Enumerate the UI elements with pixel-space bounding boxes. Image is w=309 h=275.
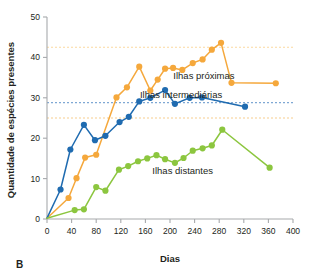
data-point-ilhas-pr-ximas-7 <box>136 64 142 70</box>
data-point-ilhas-distantes-7 <box>135 158 141 164</box>
x-tick-label-360: 360 <box>261 226 275 236</box>
y-tick-label-0: 0 <box>35 214 40 224</box>
y-tick-label-40: 40 <box>31 52 41 62</box>
data-point-ilhas-pr-ximas-17 <box>228 80 234 86</box>
data-point-ilhas-distantes-16 <box>219 127 225 133</box>
x-tick-label-320: 320 <box>237 226 251 236</box>
data-point-ilhas-intermedi-rias-7 <box>126 114 132 120</box>
x-tick-label-280: 280 <box>212 226 226 236</box>
x-tick-label-120: 120 <box>114 226 128 236</box>
series-line-ilhas-intermedi-rias <box>47 90 245 218</box>
data-point-ilhas-pr-ximas-4 <box>93 152 99 158</box>
x-tick-label-400: 400 <box>286 226 300 236</box>
data-point-ilhas-intermedi-rias-6 <box>116 119 122 125</box>
data-point-ilhas-pr-ximas-14 <box>199 56 205 62</box>
species-accumulation-chart: 0102030405004080120160200240280320360400… <box>0 0 309 275</box>
data-point-ilhas-intermedi-rias-14 <box>242 104 248 110</box>
data-point-ilhas-pr-ximas-15 <box>209 47 215 53</box>
y-tick-label-30: 30 <box>31 93 41 103</box>
data-point-ilhas-distantes-4 <box>102 188 108 194</box>
data-point-ilhas-distantes-6 <box>125 163 131 169</box>
x-tick-label-200: 200 <box>163 226 177 236</box>
data-point-ilhas-distantes-12 <box>180 155 186 161</box>
x-axis-title: Dias <box>160 253 180 264</box>
data-point-ilhas-distantes-1 <box>72 207 78 213</box>
chart-panel: 0102030405004080120160200240280320360400… <box>0 0 309 275</box>
y-tick-label-20: 20 <box>31 133 41 143</box>
tick-labels-group: 0102030405004080120160200240280320360400 <box>31 12 301 236</box>
x-tick-label-240: 240 <box>188 226 202 236</box>
data-point-ilhas-distantes-9 <box>153 152 159 158</box>
data-point-ilhas-pr-ximas-3 <box>82 154 88 160</box>
data-point-ilhas-pr-ximas-13 <box>190 60 196 66</box>
data-point-ilhas-distantes-2 <box>81 206 87 212</box>
data-point-ilhas-pr-ximas-10 <box>162 66 168 72</box>
data-point-ilhas-pr-ximas-2 <box>73 175 79 181</box>
x-tick-label-160: 160 <box>138 226 152 236</box>
data-point-ilhas-distantes-5 <box>116 167 122 173</box>
series-label-ilhas-pr-ximas: Ilhas próximas <box>173 70 234 81</box>
series-group <box>47 40 279 218</box>
data-point-ilhas-intermedi-rias-2 <box>67 146 73 152</box>
data-point-ilhas-distantes-8 <box>144 155 150 161</box>
data-point-ilhas-pr-ximas-18 <box>273 80 279 86</box>
y-axis-title: Quantidade de espécies presentes <box>5 42 16 198</box>
x-tick-label-80: 80 <box>91 226 101 236</box>
panel-label: B <box>16 259 23 270</box>
data-point-ilhas-pr-ximas-1 <box>65 195 71 201</box>
data-point-ilhas-distantes-14 <box>199 145 205 151</box>
x-tick-label-40: 40 <box>67 226 77 236</box>
data-point-ilhas-intermedi-rias-4 <box>92 137 98 143</box>
data-point-ilhas-intermedi-rias-3 <box>81 122 87 128</box>
series-label-ilhas-distantes: Ilhas distantes <box>152 165 213 176</box>
data-point-ilhas-pr-ximas-9 <box>155 77 161 83</box>
data-point-ilhas-intermedi-rias-1 <box>57 186 63 192</box>
data-point-ilhas-distantes-10 <box>162 156 168 162</box>
data-point-ilhas-distantes-13 <box>190 148 196 154</box>
data-point-ilhas-intermedi-rias-5 <box>102 133 108 139</box>
data-point-ilhas-distantes-17 <box>267 165 273 171</box>
data-point-ilhas-pr-ximas-6 <box>124 84 130 90</box>
y-tick-label-50: 50 <box>31 12 41 22</box>
y-tick-label-10: 10 <box>31 174 41 184</box>
x-tick-label-0: 0 <box>45 226 50 236</box>
series-label-ilhas-intermedi-rias: Ilhas intermediárias <box>140 89 223 100</box>
data-point-ilhas-distantes-3 <box>93 184 99 190</box>
data-point-ilhas-distantes-15 <box>209 142 215 148</box>
data-point-ilhas-pr-ximas-16 <box>218 40 224 46</box>
data-point-ilhas-pr-ximas-5 <box>113 94 119 100</box>
data-point-ilhas-intermedi-rias-11 <box>172 101 178 107</box>
